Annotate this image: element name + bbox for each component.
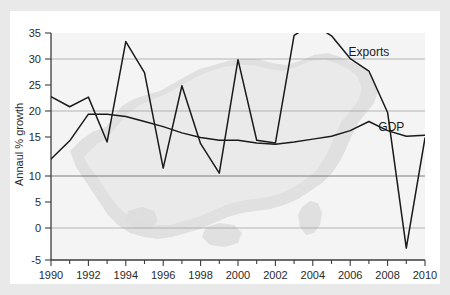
x-tick-label: 2010 (413, 269, 437, 281)
x-tick-label: 2004 (301, 269, 325, 281)
x-tick-label: 1996 (151, 269, 175, 281)
x-tick-label: 2002 (263, 269, 287, 281)
y-tick-label: 25 (29, 79, 41, 91)
series-label-exports: Exports (349, 45, 390, 59)
y-axis-title: Annaul % growth (13, 103, 25, 186)
x-tick-label: 1990 (39, 269, 63, 281)
y-tick-label: 15 (29, 131, 41, 143)
x-tick-label: 2000 (226, 269, 250, 281)
x-tick-label: 1992 (76, 269, 100, 281)
x-tick-label: 2006 (338, 269, 362, 281)
x-axis-ticks (51, 260, 425, 266)
y-tick-label: 0 (35, 222, 41, 234)
y-tick-label: 5 (35, 196, 41, 208)
x-tick-label: 2008 (375, 269, 399, 281)
y-tick-label: 10 (29, 170, 41, 182)
y-tick-label: -5 (31, 254, 41, 266)
x-axis-tick-labels: 1990 1992 1994 1996 1998 2000 2002 2004 … (39, 269, 437, 281)
series-label-gdp: GDP (378, 120, 404, 134)
y-tick-label: 30 (29, 53, 41, 65)
y-tick-label: 35 (29, 27, 41, 39)
y-tick-label: 20 (29, 105, 41, 117)
x-tick-label: 1998 (188, 269, 212, 281)
y-axis-ticks (45, 33, 51, 260)
y-axis-tick-labels: 35 30 25 20 15 10 5 0 -5 (29, 27, 41, 266)
chart-figure-panel: 35 30 25 20 15 10 5 0 -5 Annaul % growth (10, 11, 440, 284)
line-chart: 35 30 25 20 15 10 5 0 -5 Annaul % growth (10, 11, 440, 284)
x-tick-label: 1994 (114, 269, 138, 281)
